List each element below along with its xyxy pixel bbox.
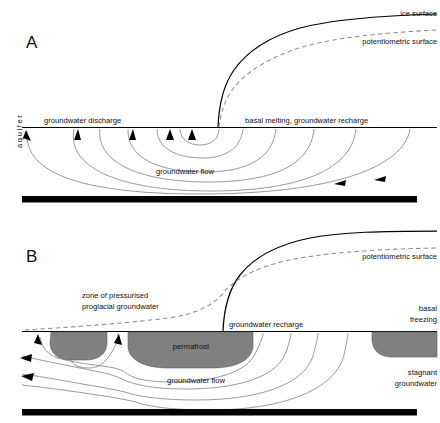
- groundwater-discharge-label: groundwater discharge: [44, 116, 121, 125]
- cross-section-diagram: A ice surface potentiometric surface gro…: [0, 0, 440, 423]
- discharge-arrow-a-1: [74, 129, 81, 140]
- bedrock-bar-b: [22, 409, 417, 416]
- pressurised-zone-label-line1: zone of pressurised: [82, 291, 148, 300]
- panel-b: B potentiometric surface zone of pressur…: [20, 231, 438, 416]
- stagnant-groundwater-label-line2: groundwater: [395, 379, 438, 388]
- discharge-arrow-a-4: [188, 129, 196, 140]
- aquifer-label: aquifer: [15, 114, 24, 148]
- stagnant-groundwater-label-line1: stagnant: [408, 368, 438, 377]
- groundwater-recharge-label: groundwater recharge: [229, 320, 303, 329]
- outflow-arrow-b-1: [20, 354, 32, 362]
- panel-a: A ice surface potentiometric surface gro…: [15, 9, 437, 203]
- panel-b-label: B: [26, 247, 37, 266]
- ice-surface-label: ice surface: [400, 9, 437, 18]
- recharge-arrow-a-2: [374, 176, 386, 182]
- bedrock-bar-a: [22, 196, 417, 203]
- permafrost-body-left: [50, 332, 107, 360]
- flowline-a-1: [180, 129, 219, 145]
- potentiometric-surface-label-a: potentiometric surface: [362, 37, 437, 46]
- potentiometric-surface-label-b: potentiometric surface: [362, 252, 437, 261]
- recharge-arrows-a: [334, 176, 386, 186]
- ice-surface-curve: [218, 14, 437, 127]
- flowlines-a: [27, 129, 410, 194]
- permafrost-body-right: [372, 332, 437, 357]
- discharge-arrow-a-2: [129, 129, 136, 140]
- flowline-a-3: [128, 129, 276, 172]
- panel-a-label: A: [26, 33, 38, 52]
- figure-container: A ice surface potentiometric surface gro…: [0, 0, 440, 423]
- ice-surface-curve-b: [223, 231, 437, 331]
- groundwater-flow-label-b: groundwater flow: [167, 376, 225, 385]
- basal-melting-recharge-label: basal melting, groundwater recharge: [245, 116, 368, 125]
- discharge-arrows-a: [23, 129, 196, 141]
- pressurised-zone-label-line2: proglacial groundwater: [82, 302, 159, 311]
- basal-freezing-label-line2: freezing: [410, 315, 437, 324]
- basal-freezing-label-line1: basal: [419, 304, 437, 313]
- groundwater-flow-label-a: groundwater flow: [156, 167, 214, 176]
- permafrost-label: permafrost: [173, 342, 210, 351]
- discharge-arrow-a-3: [166, 129, 174, 140]
